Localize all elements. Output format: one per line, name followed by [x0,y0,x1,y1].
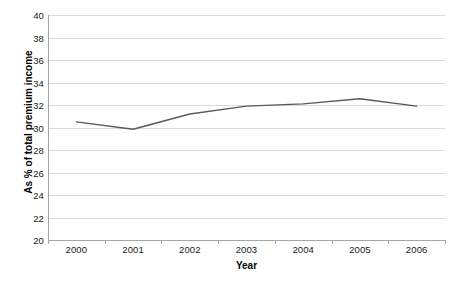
x-tick-label: 2006 [392,245,442,255]
x-tick-label: 2000 [51,245,101,255]
x-tick-label: 2003 [222,245,272,255]
line-chart: 40 38 36 34 32 30 28 26 24 22 20 2000200… [0,0,453,281]
x-tick-label: 2005 [335,245,385,255]
x-tick-label: 2001 [108,245,158,255]
gridlines [48,16,445,241]
x-axis-title: Year [48,261,445,271]
data-series-line [76,99,416,129]
x-tick-label: 2002 [165,245,215,255]
x-tick-label: 2004 [278,245,328,255]
plot-area [0,0,453,281]
y-axis-title: As % of total premium income [24,37,34,207]
